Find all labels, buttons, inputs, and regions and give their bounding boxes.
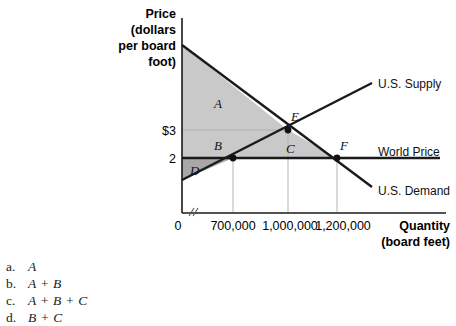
world-price-label: World Price: [378, 145, 440, 159]
x-tick-label-1000000: 1,000,000: [262, 219, 318, 233]
y-axis-title-line1: Price: [145, 7, 176, 21]
point-marker-supply-at-world-price: [230, 155, 237, 162]
region-label-D: D: [189, 163, 200, 178]
x-tick-label-700000: 700,000: [210, 219, 255, 233]
y-tick-label-2: 2: [169, 152, 176, 166]
answer-option-c[interactable]: c. A + B + C: [6, 292, 206, 309]
region-label-B: B: [214, 138, 222, 153]
x-tick-label-1200000: 1,200,000: [315, 219, 371, 233]
y-axis-title-line4: foot): [148, 55, 176, 69]
answer-option-b[interactable]: b. A + B: [6, 275, 206, 292]
y-axis-title-line2: (dollars: [131, 23, 176, 37]
curve-labels: U.S. Supply World Price U.S. Demand: [378, 77, 450, 198]
answer-key-c: c.: [6, 292, 28, 309]
us-supply-label: U.S. Supply: [378, 77, 441, 91]
answer-option-a[interactable]: a. A: [6, 258, 206, 275]
answer-text-c: A + B + C: [28, 292, 88, 309]
answer-key-a: a.: [6, 258, 28, 275]
answer-key-b: b.: [6, 275, 28, 292]
us-demand-label: U.S. Demand: [378, 184, 450, 198]
y-axis-title-line3: per board: [118, 39, 176, 53]
axis-break-mark: [189, 208, 198, 216]
answer-text-d: B + C: [28, 309, 63, 326]
region-label-A: A: [213, 96, 222, 111]
x-axis-title-line1: Quantity: [399, 219, 450, 233]
answer-text-b: A + B: [28, 275, 62, 292]
x-axis-title-line2: (board feet): [381, 235, 450, 249]
y-tick-label-3: $3: [162, 124, 176, 138]
y-axis-title: Price (dollars per board foot): [118, 7, 176, 69]
point-label-F: F: [339, 138, 349, 153]
region-label-C: C: [286, 141, 295, 156]
point-marker-F: [334, 155, 341, 162]
answer-options-list: a. A b. A + B c. A + B + C d. B + C: [6, 258, 206, 326]
answer-key-d: d.: [6, 309, 28, 326]
answer-text-a: A: [28, 258, 37, 275]
answer-option-d[interactable]: d. B + C: [6, 309, 206, 326]
x-axis-title: Quantity (board feet): [381, 219, 450, 249]
x-tick-label-0: 0: [175, 219, 182, 233]
point-label-E: E: [290, 109, 299, 124]
point-marker-E: [285, 127, 292, 134]
